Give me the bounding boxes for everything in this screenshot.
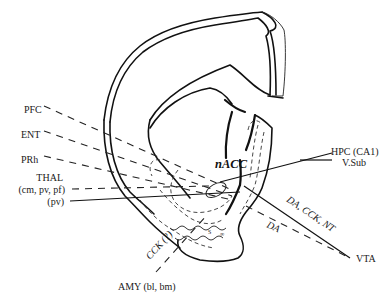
amy-path-label: CCK (?): [143, 228, 175, 262]
thal-nuclei-label: (cm, pv, pf): [18, 184, 65, 196]
vta-dashed-path-label: DA: [264, 218, 282, 234]
islands-mark: S: [208, 229, 211, 235]
nacc-projection-diagram: S ∞ PFC ENT PRh THAL (cm, pv, pf) (pv) H…: [0, 0, 388, 302]
thal-projection-line: [72, 186, 210, 189]
brain-section-outline: S ∞: [104, 12, 285, 261]
vta-label: VTA: [356, 253, 377, 264]
islands-mark: ∞: [220, 231, 224, 237]
projection-lines: [44, 106, 350, 272]
thal-pv-label: (pv): [47, 196, 64, 208]
prh-label: PRh: [21, 154, 38, 165]
thal-pv-projection-line: [70, 192, 240, 201]
vsub-label: V.Sub: [342, 157, 366, 168]
ent-label: ENT: [21, 129, 40, 140]
thal-label: THAL: [36, 172, 63, 183]
vta-dashed-projection-line: [246, 206, 350, 258]
nacc-label: nACC: [215, 157, 248, 171]
amy-label: AMY (bl, bm): [118, 281, 176, 293]
vta-solid-path-label: DA, CCK, NT: [284, 193, 338, 235]
pfc-projection-line: [44, 106, 232, 190]
labels: PFC ENT PRh THAL (cm, pv, pf) (pv) HPC (…: [18, 104, 378, 293]
pfc-label: PFC: [24, 104, 42, 115]
